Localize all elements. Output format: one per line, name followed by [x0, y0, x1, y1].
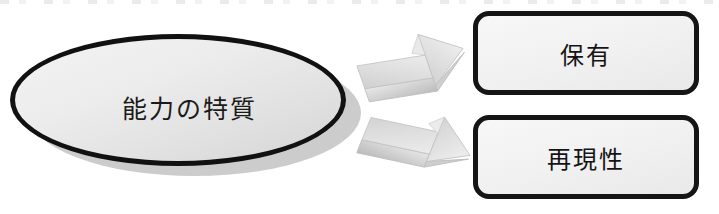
ellipse-node-capability-traits[interactable]: 能力の特質 [10, 34, 346, 166]
ellipse-node-label: 能力の特質 [122, 89, 257, 125]
arrow-upper-icon [352, 14, 470, 110]
diagram-canvas: 能力の特質 [0, 0, 719, 214]
box-node-reproducibility[interactable]: 再現性 [473, 115, 699, 199]
box-node-possession-label: 保有 [560, 36, 612, 71]
scan-artifact-top-edge [0, 0, 719, 4]
arrow-lower-icon [354, 108, 472, 206]
box-node-reproducibility-label: 再現性 [547, 140, 625, 175]
box-node-possession[interactable]: 保有 [473, 11, 699, 95]
